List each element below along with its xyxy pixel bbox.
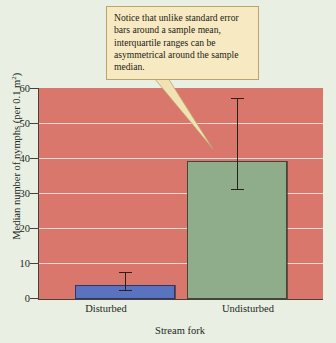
y-tick-label-10: 10 [0,259,30,270]
gridline-40 [39,158,323,159]
errorbar-cap-bottom-disturbed [119,290,132,292]
chart-figure: 60 50 40 30 20 10 0 Median number of nym… [0,0,336,343]
y-axis-title-suffix: ) [11,73,22,77]
y-tick-30 [30,193,38,194]
y-tick-20 [30,228,38,229]
errorbar-line-undisturbed [237,99,238,190]
plot-area [38,88,323,300]
annotation-callout: Notice that unlike standard error bars a… [106,6,259,80]
errorbar-cap-bottom-undisturbed [231,189,244,191]
x-tick-label-undisturbed: Undisturbed [174,303,322,314]
errorbar-cap-top-undisturbed [231,98,244,100]
errorbar-line-disturbed [125,273,126,291]
errorbar-cap-top-disturbed [119,272,132,274]
y-tick-60 [30,88,38,89]
gridline-50 [39,123,323,124]
y-tick-50 [30,123,38,124]
y-tick-40 [30,158,38,159]
y-tick-0 [30,298,38,299]
x-tick-label-disturbed: Disturbed [38,303,174,314]
y-axis-title-exponent: 2 [10,76,18,80]
x-axis-title: Stream fork [38,325,322,336]
y-axis-title-text: Median number of nymphs (per 0.1 m [11,80,22,240]
y-tick-label-0: 0 [0,294,30,305]
annotation-text: Notice that unlike standard error bars a… [114,12,239,72]
y-axis-title: Median number of nymphs (per 0.1 m2) [10,56,23,256]
y-tick-10 [30,263,38,264]
